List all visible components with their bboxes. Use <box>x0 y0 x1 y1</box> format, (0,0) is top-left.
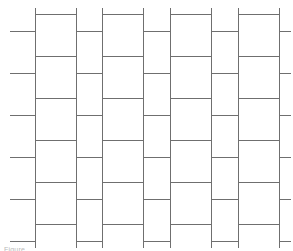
tiling-pattern-canvas: Rectangular staggered tiling pattern Bla… <box>0 0 293 251</box>
figure-background <box>0 0 293 251</box>
tiling-pattern-figure: Rectangular staggered tiling pattern Bla… <box>0 0 293 251</box>
figure-caption: Figure <box>4 246 25 251</box>
